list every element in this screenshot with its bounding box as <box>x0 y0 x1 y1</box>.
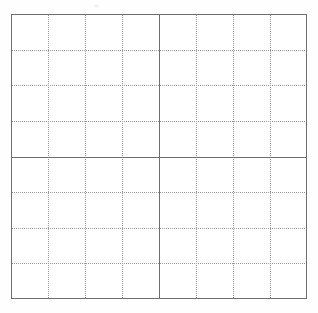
page-canvas <box>0 0 318 313</box>
minor-vertical-gridline-6 <box>233 15 234 298</box>
minor-horizontal-gridline-6 <box>12 228 306 229</box>
major-vertical-gridline-4 <box>159 15 160 298</box>
minor-horizontal-gridline-7 <box>12 263 306 264</box>
minor-horizontal-gridline-1 <box>12 50 306 51</box>
minor-horizontal-gridline-2 <box>12 85 306 86</box>
minor-vertical-gridline-3 <box>122 15 123 298</box>
minor-vertical-gridline-5 <box>196 15 197 298</box>
minor-vertical-gridline-2 <box>85 15 86 298</box>
ruled-grid-sheet <box>11 14 307 299</box>
minor-vertical-gridline-7 <box>270 15 271 298</box>
scan-speck-artifact <box>94 4 99 8</box>
minor-vertical-gridline-1 <box>48 15 49 298</box>
minor-horizontal-gridline-5 <box>12 192 306 193</box>
grid-surface <box>12 15 306 298</box>
minor-horizontal-gridline-3 <box>12 121 306 122</box>
major-horizontal-gridline-4 <box>12 157 306 158</box>
